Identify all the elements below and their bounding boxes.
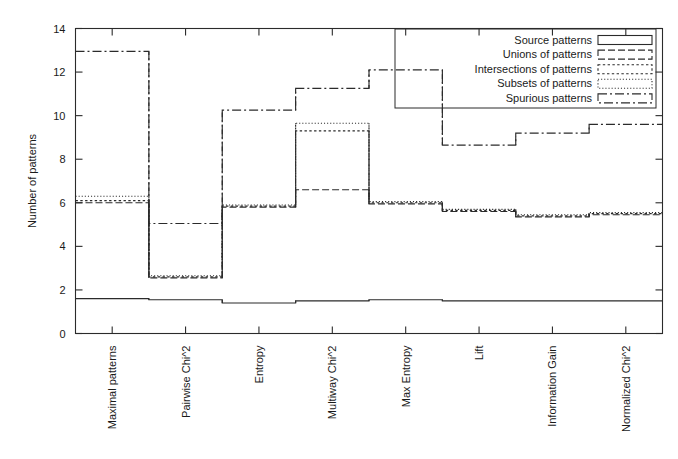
x-category-label: Pairwise Chi^2	[180, 346, 192, 418]
x-category-label: Lift	[473, 346, 485, 361]
legend-key-swatch	[598, 94, 652, 103]
x-category-label: Normalized Chi^2	[620, 346, 632, 432]
y-tick-label: 10	[53, 110, 65, 122]
x-category-label: Multiway Chi^2	[326, 346, 338, 420]
legend-label: Subsets of patterns	[497, 77, 592, 89]
legend-key-swatch	[598, 36, 652, 45]
legend-key-swatch	[598, 50, 652, 59]
y-tick-label: 4	[59, 240, 65, 252]
y-tick-label: 14	[53, 23, 65, 35]
y-tick-label: 8	[59, 153, 65, 165]
legend-key-swatch	[598, 79, 652, 88]
legend-label: Spurious patterns	[506, 92, 593, 104]
y-axis-title: Number of patterns	[26, 133, 38, 228]
x-category-labels: Maximal patternsPairwise Chi^2EntropyMul…	[106, 345, 632, 432]
legend-label: Unions of patterns	[503, 48, 593, 60]
chart-canvas: 02468101214 Number of patterns Maximal p…	[0, 0, 678, 459]
y-tick-label: 0	[59, 328, 65, 340]
x-category-label: Information Gain	[546, 346, 558, 427]
x-category-label: Entropy	[253, 345, 265, 383]
x-category-label: Max Entropy	[400, 345, 412, 407]
legend-key-swatch	[598, 65, 652, 74]
y-tick-label: 2	[59, 284, 65, 296]
chart-legend: Source patternsUnions of patternsInterse…	[395, 29, 656, 108]
x-category-label: Maximal patterns	[106, 345, 118, 429]
y-tick-label: 12	[53, 66, 65, 78]
chart-figure: 02468101214 Number of patterns Maximal p…	[0, 0, 678, 459]
y-tick-label: 6	[59, 197, 65, 209]
legend-label: Intersections of patterns	[475, 63, 593, 75]
legend-label: Source patterns	[514, 34, 592, 46]
